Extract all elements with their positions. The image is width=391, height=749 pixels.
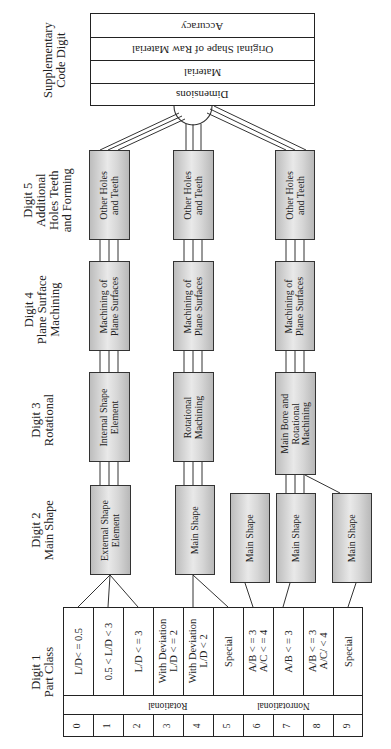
box-c-digit3-main-bore: Main Bore and Rotational Machining [275, 372, 316, 475]
box-c-digit2-main-shape-2: Main Shape [276, 493, 316, 583]
condition-cell-7: A/B < = 3 [273, 607, 304, 696]
box-b-digit3-rotational-machining: Rotational Machining [173, 372, 214, 462]
condition-cell-9: Special [333, 607, 363, 696]
heading-supplementary: Supplementary Code Digit [30, 10, 80, 110]
box-b-digit4-plane-machining: Machining of Plane Surfaces [173, 261, 214, 351]
digit-cell-8: 8 [303, 714, 334, 737]
group-label-nonrotational: Nonrotational [238, 695, 328, 715]
part-class-table: L/D< = 0.5 0.5 < L/D < 3 L/D < = 3 With … [63, 607, 363, 737]
condition-cell-8: A/B < = 3 A/C/ < 4 [303, 607, 334, 696]
digit-cell-0: 0 [63, 714, 94, 737]
box-a-digit2-external-shape: External Shape Element [90, 485, 131, 575]
group-label-rotational: Rotational [123, 695, 213, 715]
box-a-digit3-internal-shape: Internal Shape Element [89, 372, 130, 462]
condition-cell-5: Special [213, 607, 244, 696]
heading-digit1: Digit 1 Part Class [18, 612, 68, 732]
condition-cell-1: 0.5 < L/D < 3 [93, 607, 124, 696]
supplementary-code-box: Accuracy Original Shape of Raw Material … [90, 13, 315, 106]
condition-cell-2: L/D < = 3 [123, 607, 154, 696]
heading-digit3: Digit 3 Rotational [18, 370, 68, 470]
box-a-digit5-other-holes: Other Holes and Teeth [89, 150, 130, 240]
supp-row-accuracy: Accuracy [91, 14, 314, 38]
heading-digit5: Digit 5 Additional Holes Teeth and Formi… [6, 150, 90, 250]
box-a-digit4-plane-machining: Machining of Plane Surfaces [89, 261, 130, 351]
heading-digit4: Digit 4 Plane Surface Machining [12, 260, 74, 360]
condition-cell-6: A/B < = 3 A/C < = 4 [243, 607, 274, 696]
supp-row-dimensions: Dimensions [91, 83, 314, 105]
heading-digit2: Digit 2 Main Shape [18, 480, 68, 580]
digit-cell-7: 7 [273, 714, 304, 737]
digit-cell-3: 3 [153, 714, 184, 737]
box-c-digit2-main-shape-3: Main Shape [332, 493, 372, 583]
digit-cell-4: 4 [183, 714, 214, 737]
box-c-digit5-other-holes: Other Holes and Teeth [275, 150, 315, 240]
box-c-digit2-main-shape-1: Main Shape [230, 493, 270, 583]
digit-cell-6: 6 [243, 714, 274, 737]
digit-cell-1: 1 [93, 714, 124, 737]
supp-row-material: Material [91, 60, 314, 84]
digit-cell-9: 9 [333, 714, 363, 737]
box-c-digit4-plane-machining: Machining of Plane Surfaces [275, 261, 315, 351]
box-b-digit5-other-holes: Other Holes and Teeth [173, 150, 214, 240]
supp-row-raw-material-shape: Original Shape of Raw Material [91, 37, 314, 61]
condition-cell-4: With Deviation L/D < 2 [183, 607, 214, 696]
condition-cell-0: L/D< = 0.5 [63, 607, 94, 696]
box-b-digit2-main-shape: Main Shape [175, 485, 215, 575]
digit-cell-2: 2 [123, 714, 154, 737]
digit-cell-5: 5 [213, 714, 244, 737]
condition-cell-3: With Deviation L/D < = 2 [153, 607, 184, 696]
